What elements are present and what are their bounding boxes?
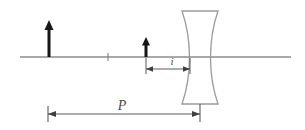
image-arrow [142, 37, 150, 57]
optics-diagram: i P [0, 0, 305, 130]
dimension-p: P [48, 98, 200, 122]
dimension-i-arrowhead-left [146, 66, 153, 72]
diagram-canvas: i P [0, 0, 305, 130]
dimension-p-arrowhead-right [192, 111, 200, 117]
dimension-i: i [146, 55, 190, 74]
image-arrow-head [142, 37, 150, 46]
object-arrow-head [45, 20, 54, 30]
object-arrow [45, 20, 54, 57]
dimension-p-arrowhead-left [48, 111, 56, 117]
dimension-p-label: P [117, 98, 127, 113]
dimension-i-label: i [170, 55, 173, 67]
